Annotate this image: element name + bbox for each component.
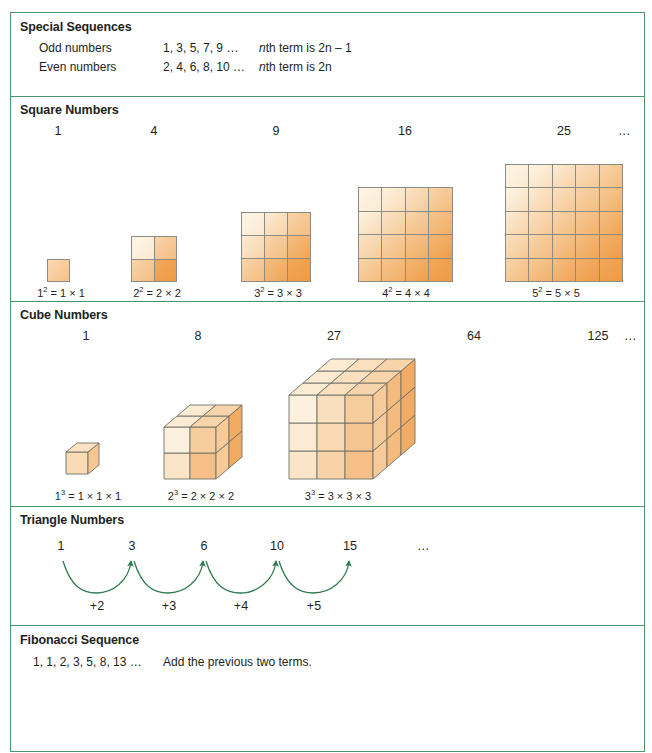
square-cell — [529, 188, 552, 211]
cube-2x2x2 — [164, 405, 242, 479]
fibonacci-sequence: 1, 1, 2, 3, 5, 8, 13 … — [33, 655, 142, 669]
cube-front-face — [345, 451, 373, 479]
square-cell — [382, 212, 405, 235]
square-cell — [506, 188, 529, 211]
square-cell — [529, 259, 552, 282]
special-row-rule-odd: nth term is 2n – 1 — [259, 41, 352, 55]
cube-front-face — [317, 395, 345, 423]
square-cell — [506, 235, 529, 258]
square-cell — [242, 213, 264, 235]
square-cell — [359, 235, 382, 258]
cube-front-face — [164, 453, 190, 479]
square-caption-4: 42 = 4 × 4 — [382, 287, 430, 299]
square-cell — [553, 235, 576, 258]
poster-panel: Special Sequences Odd numbers 1, 3, 5, 7… — [10, 12, 645, 752]
section-cube-numbers: Cube Numbers 1 8 27 64 125 … 13 = 1 × 1 … — [11, 301, 644, 506]
square-grid-2x2 — [131, 236, 177, 282]
square-cell — [265, 236, 287, 258]
triangle-step-arrow — [63, 561, 131, 593]
fibonacci-rule: Add the previous two terms. — [163, 655, 312, 669]
special-rule-n-even: n — [259, 60, 266, 74]
square-cell — [359, 188, 382, 211]
special-rule-text-odd: th term is 2n – 1 — [266, 41, 352, 55]
cube-caption-1: 13 = 1 × 1 × 1 — [55, 490, 121, 502]
square-cell — [288, 259, 310, 281]
triangle-step-4: +5 — [307, 599, 321, 613]
square-cell — [576, 188, 599, 211]
square-cell — [429, 188, 452, 211]
square-cell — [155, 237, 177, 259]
square-cell — [132, 260, 154, 282]
square-cell — [265, 213, 287, 235]
square-cell — [576, 212, 599, 235]
square-cell — [132, 237, 154, 259]
square-cell — [155, 260, 177, 282]
cube-caption-3: 33 = 3 × 3 × 3 — [305, 490, 371, 502]
square-cell — [406, 188, 429, 211]
square-grid-4x4 — [358, 187, 453, 282]
square-caption-5: 52 = 5 × 5 — [532, 287, 580, 299]
triangle-arrow-diagram — [11, 507, 646, 626]
cube-front-face — [317, 451, 345, 479]
square-number-16: 16 — [398, 124, 412, 138]
section-title-special: Special Sequences — [20, 20, 132, 34]
section-square-numbers: Square Numbers 1 4 9 16 25 … 12 = 1 × 1 … — [11, 96, 644, 301]
cube-front-face — [345, 395, 373, 423]
square-cell — [553, 212, 576, 235]
square-cell — [553, 165, 576, 188]
square-caption-1: 12 = 1 × 1 — [37, 287, 85, 299]
square-cell — [406, 212, 429, 235]
square-cell — [600, 165, 623, 188]
square-number-4: 4 — [151, 124, 158, 138]
special-row-rule-even: nth term is 2n — [259, 60, 332, 74]
special-rule-n-odd: n — [259, 41, 266, 55]
square-cell — [359, 212, 382, 235]
cube-1x1x1 — [66, 443, 99, 474]
square-cell — [576, 235, 599, 258]
square-cell — [553, 259, 576, 282]
square-cell — [506, 212, 529, 235]
square-cell — [359, 259, 382, 282]
cube-front-face — [289, 423, 317, 451]
square-cell — [429, 212, 452, 235]
square-cell — [288, 236, 310, 258]
section-title-square: Square Numbers — [20, 103, 119, 117]
cube-front-face — [345, 423, 373, 451]
square-cell — [506, 165, 529, 188]
square-cell — [529, 235, 552, 258]
square-cell — [382, 259, 405, 282]
square-caption-rest-3: = 3 × 3 — [264, 287, 301, 299]
special-row-sequence-odd: 1, 3, 5, 7, 9 … — [163, 41, 238, 55]
square-cell — [429, 259, 452, 282]
cube-caption-rest-2: = 2 × 2 × 2 — [178, 490, 234, 502]
cube-front-face — [66, 452, 88, 474]
square-cell — [576, 259, 599, 282]
square-cell — [600, 235, 623, 258]
triangle-step-3: +4 — [234, 599, 248, 613]
square-cell — [382, 188, 405, 211]
cube-front-face — [289, 451, 317, 479]
cube-3x3x3 — [289, 359, 415, 479]
square-cell — [576, 165, 599, 188]
square-cell — [506, 259, 529, 282]
square-caption-rest-5: = 5 × 5 — [542, 287, 579, 299]
triangle-step-arrow — [206, 561, 276, 593]
cube-caption-rest-3: = 3 × 3 × 3 — [315, 490, 371, 502]
square-cell — [553, 188, 576, 211]
square-cell — [529, 212, 552, 235]
section-fibonacci: Fibonacci Sequence 1, 1, 2, 3, 5, 8, 13 … — [11, 625, 644, 753]
square-cell — [600, 188, 623, 211]
square-cell — [406, 259, 429, 282]
square-cell — [265, 259, 287, 281]
cube-front-face — [190, 453, 216, 479]
square-grid-3x3 — [241, 212, 311, 282]
special-row-label-odd: Odd numbers — [39, 41, 112, 55]
square-caption-3: 32 = 3 × 3 — [254, 287, 302, 299]
cube-illustrations — [11, 302, 646, 507]
section-triangle-numbers: Triangle Numbers 1 3 6 10 15 … +2 +3 +4 … — [11, 506, 644, 625]
square-caption-2: 22 = 2 × 2 — [133, 287, 181, 299]
square-cell — [429, 235, 452, 258]
square-cell — [406, 235, 429, 258]
square-number-9: 9 — [273, 124, 280, 138]
